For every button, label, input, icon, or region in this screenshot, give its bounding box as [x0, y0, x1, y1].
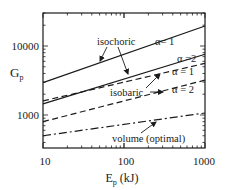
isochoric-arrow-alpha2	[118, 47, 128, 74]
plot-frame	[43, 13, 205, 148]
x-tick-label-10: 10	[40, 155, 52, 167]
alpha-2-isobaric-label: α = 2	[172, 84, 194, 95]
chart: 1000 10000 10 100 1000 Gp Ep (kJ) isocho…	[0, 0, 229, 190]
y-axis-label: Gp	[10, 65, 23, 82]
alpha-1-isochoric-label: α= 1	[155, 36, 174, 47]
x-axis-label: Ep (kJ)	[105, 171, 138, 187]
volume-arrow	[141, 122, 156, 133]
y-tick-label-10000: 10000	[12, 40, 40, 52]
x-tick-label-1000: 1000	[193, 155, 216, 167]
volume-optimal-label: volume (optimal)	[112, 133, 186, 145]
alpha-2-isochoric-label: α =2	[177, 53, 196, 64]
x-tick-label-100: 100	[118, 155, 135, 167]
isochoric-arrow-alpha1	[100, 47, 107, 61]
isobaric-label: isobaric	[110, 87, 144, 98]
y-tick-labels: 1000 10000	[12, 40, 40, 121]
x-tick-labels: 10 100 1000	[40, 155, 216, 167]
axis-ticks	[43, 13, 205, 148]
alpha-1-isobaric-label: α = 1	[172, 66, 194, 77]
isochoric-label: isochoric	[97, 36, 136, 47]
y-tick-label-1000: 1000	[17, 109, 40, 121]
